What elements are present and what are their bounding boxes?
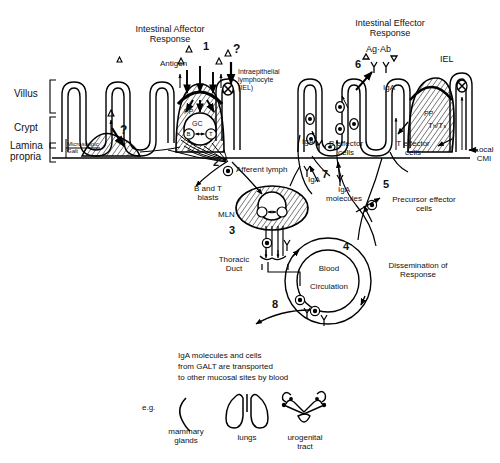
ag-ab-complex xyxy=(363,54,397,73)
germinal-center-villus xyxy=(184,113,216,145)
label-th-ts: Tₕ/Tₛ xyxy=(428,122,446,131)
label-b-and-t-blasts: B and T blasts xyxy=(178,185,238,203)
region-brackets xyxy=(50,80,56,162)
label-dissemination: Dissemination of Response xyxy=(370,262,466,280)
step-number-1: 1 xyxy=(203,40,209,52)
step-number-7: 7 xyxy=(322,168,328,180)
label-t-effector-cells: T effector cells xyxy=(384,140,442,158)
label-b-cell: B xyxy=(187,131,191,138)
label-afferent-lymph: Afferent lymph xyxy=(236,166,287,175)
dissemination-arrow-8 xyxy=(256,310,310,324)
label-t-cell: T xyxy=(209,131,213,138)
step-number-3: 3 xyxy=(229,224,235,236)
label-iga-left: IgA xyxy=(302,138,314,147)
caption-organ-urogenital: urogenital tract xyxy=(274,434,336,452)
label-pp-effector: PP xyxy=(424,110,433,118)
step-number-8: 8 xyxy=(272,298,278,310)
lungs-icon xyxy=(226,394,268,428)
label-b-effector-cells: B effector cells xyxy=(318,140,374,158)
label-microscopic-galt: Microscopic Galt xyxy=(67,141,99,154)
question-mark-galt: ? xyxy=(120,124,127,137)
step-number-4: 4 xyxy=(343,240,349,252)
step-number-5: 5 xyxy=(383,178,389,190)
lymph-cell-duct xyxy=(262,238,271,247)
afferent-lymph-cell xyxy=(223,166,232,175)
step-number-6: 6 xyxy=(355,58,361,70)
label-villus: Villus xyxy=(14,88,38,99)
iga-symbol-duct xyxy=(284,240,290,251)
label-gc: GC xyxy=(192,120,203,128)
caption-eg: e.g. xyxy=(142,404,155,413)
caption-line-3: to other mucosal sites by blood xyxy=(178,374,288,383)
iel-cell-affector xyxy=(223,83,233,95)
label-pp-affector: PP xyxy=(184,108,193,116)
caption-line-1: IgA molecules and cells xyxy=(178,352,262,361)
label-iga-lymph: IgA xyxy=(308,176,320,185)
effector-response-title: Intestinal Effector Response xyxy=(330,18,450,38)
label-iga-top: IgA xyxy=(383,84,395,93)
caption-organ-mammary: mammary glands xyxy=(158,428,214,446)
label-local-cmi: Local CMI xyxy=(468,146,500,164)
label-precursor-effector-cells: Precursor effector cells xyxy=(376,196,472,214)
label-crypt: Crypt xyxy=(14,122,38,133)
affector-response-title: Intestinal Affector Response xyxy=(110,24,230,44)
urogenital-tract-icon xyxy=(282,392,325,423)
figure-canvas: Intestinal Affector Response Intestinal … xyxy=(0,0,500,463)
label-antigen: Antigen xyxy=(160,60,187,69)
step-number-2: 2 xyxy=(213,156,219,168)
label-iel: IEL xyxy=(440,54,454,64)
label-ag-ab: Ag·Ab xyxy=(366,44,391,54)
label-thoracic-duct: Thoracic Duct xyxy=(210,256,258,274)
iga-secretion-arrows xyxy=(356,72,372,90)
label-intraepithelial-lymphocyte: Intraepithelial lymphocyte (IEL) xyxy=(238,68,280,91)
label-iga-molecules: IgA molecules xyxy=(316,186,372,204)
label-lamina-propria: Lamina propria xyxy=(10,140,43,162)
question-mark-iel: ? xyxy=(233,43,240,56)
label-blood-circulation: Blood Circulation xyxy=(304,265,354,292)
caption-line-2: from GALT are transported xyxy=(178,363,273,372)
mesenteric-lymph-node xyxy=(236,186,308,230)
label-mln: MLN xyxy=(218,211,235,220)
caption-organ-lungs: lungs xyxy=(224,434,270,443)
